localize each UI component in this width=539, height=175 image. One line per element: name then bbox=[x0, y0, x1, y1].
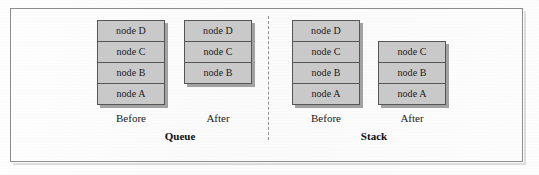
node-cell: node D bbox=[185, 21, 251, 42]
stack-group-title: Stack bbox=[304, 130, 444, 142]
stack-after-node-stack: node C node B node A bbox=[378, 41, 446, 105]
figure-queue-vs-stack: node D node C node B node A Before node … bbox=[0, 0, 539, 175]
node-cell: node B bbox=[379, 63, 445, 84]
queue-before-caption: Before bbox=[86, 112, 176, 124]
section-divider-dashed bbox=[268, 16, 269, 140]
node-cell: node C bbox=[293, 42, 359, 63]
node-cell: node C bbox=[379, 42, 445, 63]
figure-border bbox=[10, 8, 523, 162]
node-cell: node B bbox=[185, 63, 251, 83]
stack-after-caption: After bbox=[367, 112, 457, 124]
node-cell: node A bbox=[293, 84, 359, 104]
node-cell: node B bbox=[98, 63, 164, 84]
node-cell: node D bbox=[293, 21, 359, 42]
node-cell: node A bbox=[379, 84, 445, 104]
node-cell: node C bbox=[98, 42, 164, 63]
node-cell: node B bbox=[293, 63, 359, 84]
node-cell: node C bbox=[185, 42, 251, 63]
queue-after-caption: After bbox=[173, 112, 263, 124]
stack-before-caption: Before bbox=[281, 112, 371, 124]
queue-group-title: Queue bbox=[110, 130, 250, 142]
queue-after-node-stack: node D node C node B bbox=[184, 20, 252, 84]
node-cell: node D bbox=[98, 21, 164, 42]
stack-before-node-stack: node D node C node B node A bbox=[292, 20, 360, 105]
node-cell: node A bbox=[98, 84, 164, 104]
queue-before-node-stack: node D node C node B node A bbox=[97, 20, 165, 105]
